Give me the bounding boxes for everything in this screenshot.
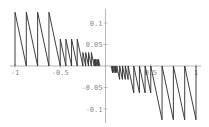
x-tick-label: -0.5 (52, 69, 69, 77)
y-tick-label: -0.1 (86, 106, 103, 114)
y-tick-label: 0.05 (86, 41, 103, 49)
axes (10, 9, 201, 123)
tick-labels: -1-0.50.510.10.05-0.05-0.1 (11, 20, 198, 114)
y-tick-label: -0.05 (81, 84, 102, 92)
x-tick-label: -1 (11, 69, 19, 77)
y-tick-label: 0.1 (90, 20, 103, 28)
sawtooth-chart: -1-0.50.510.10.05-0.05-0.1 (0, 0, 209, 127)
